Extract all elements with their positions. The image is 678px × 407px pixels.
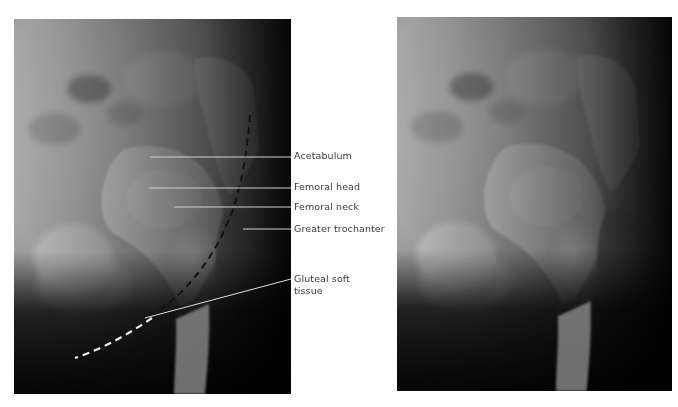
annotated-hip-radiograph (14, 19, 291, 394)
label-gluteal-soft-tissue-line2: tissue (294, 285, 323, 296)
unannotated-hip-radiograph (397, 17, 672, 391)
label-acetabulum: Acetabulum (294, 150, 352, 161)
xray-image-right (397, 17, 672, 391)
xray-image-left (14, 19, 291, 394)
label-greater-trochanter: Greater trochanter (294, 223, 385, 234)
label-gluteal-soft-tissue-line1: Gluteal soft (294, 273, 350, 284)
label-femoral-neck: Femoral neck (294, 201, 359, 212)
label-femoral-head: Femoral head (294, 181, 360, 192)
